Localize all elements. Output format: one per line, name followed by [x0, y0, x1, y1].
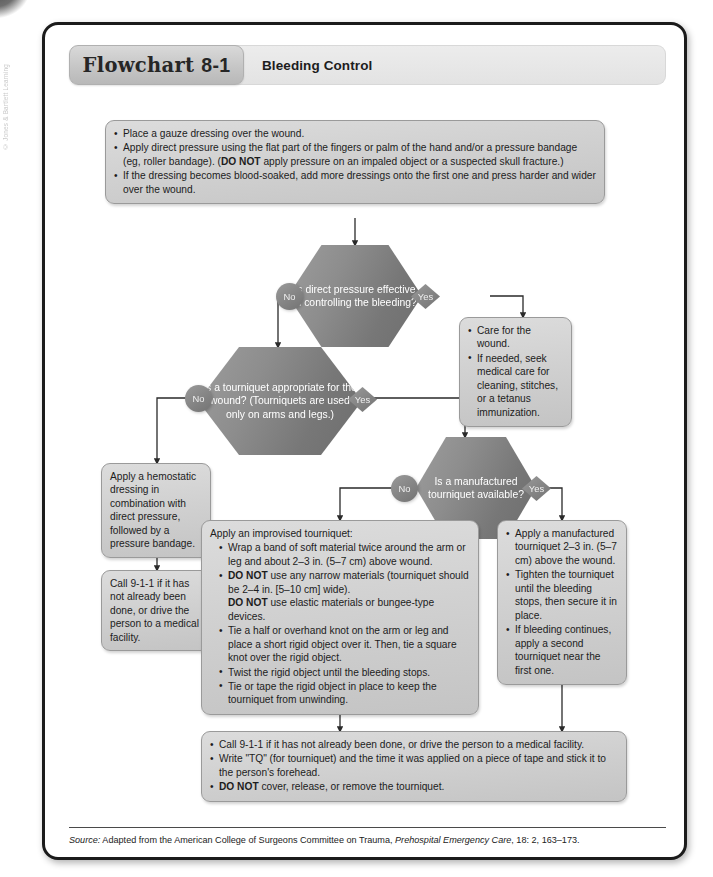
care-item-2-text: If needed, seek medical care for cleanin…	[477, 353, 558, 418]
flowchart-frame: Flowchart 8-1 Bleeding Control	[42, 22, 687, 860]
final-instructions-list: Call 9-1-1 if it has not already been do…	[210, 738, 618, 794]
decision-1-no-badge: No	[276, 283, 303, 310]
final-item-1-text: Call 9-1-1 if it has not already been do…	[219, 739, 584, 750]
list-item: Tie or tape the rigid object in place to…	[219, 680, 470, 707]
list-item: Tie a half or overhand knot on the arm o…	[219, 624, 470, 664]
flowchart-label: Flowchart	[83, 54, 195, 77]
improvised-tourniquet-box: Apply an improvised tourniquet: Wrap a b…	[201, 520, 479, 715]
care-item-1-text: Care for the wound.	[477, 325, 531, 349]
improvised-lead-text: Apply an improvised tourniquet:	[210, 527, 470, 540]
start-item-3-text: If the dressing becomes blood-soaked, ad…	[123, 170, 596, 194]
improvised-item-1-text: Wrap a band of soft material twice aroun…	[228, 542, 466, 566]
list-item: Tighten the tourniquet until the bleedin…	[506, 568, 618, 622]
improvised-item-3-text: Tie a half or overhand knot on the arm o…	[228, 625, 457, 663]
decision-2-no-label: No	[193, 393, 205, 404]
page-corner-shadow	[0, 0, 30, 18]
list-item: Call 9-1-1 if it has not already been do…	[210, 738, 618, 751]
source-citation: Source: Adapted from the American Colleg…	[69, 835, 669, 847]
source-italic-title: Prehospital Emergency Care	[395, 835, 511, 845]
decision-1-no-label: No	[284, 291, 296, 302]
list-item: If needed, seek medical care for cleanin…	[468, 352, 563, 419]
list-item: DO NOT use any narrow materials (tourniq…	[219, 569, 470, 623]
decision-3-no-badge: No	[391, 475, 418, 502]
start-item-1-text: Place a gauze dressing over the wound.	[123, 128, 304, 139]
decision-3-text: Is a manufactured tourniquet available?	[416, 475, 536, 502]
improvised-item-5-text: Tie or tape the rigid object in place to…	[228, 681, 437, 705]
manufactured-item-1-text: Apply a manufactured tourniquet 2–3 in. …	[515, 528, 617, 566]
source-text-before: Adapted from the American College of Sur…	[100, 835, 395, 845]
flowchart-page: © Jones & Bartlett Learning Flowchart 8-…	[0, 0, 713, 877]
list-item: Care for the wound.	[468, 324, 563, 351]
list-item: Place a gauze dressing over the wound.	[114, 127, 596, 140]
care-for-wound-list: Care for the wound. If needed, seek medi…	[468, 324, 563, 419]
improvised-steps-list: Wrap a band of soft material twice aroun…	[210, 541, 470, 706]
decision-2-no-badge: No	[185, 385, 212, 412]
footer-divider	[69, 827, 666, 828]
source-text-after: , 18: 2, 163–173.	[511, 835, 579, 845]
flowchart-number-text: Flowchart 8-1	[83, 54, 231, 77]
list-item: Twist the rigid object until the bleedin…	[219, 666, 470, 679]
call-911-left-box: Call 9-1-1 if it has not already been do…	[101, 570, 211, 651]
decision-2-yes-label: Yes	[355, 394, 370, 405]
flowchart-number-tab: Flowchart 8-1	[69, 45, 244, 85]
decision-1-text: Is direct pressure effective in controll…	[288, 283, 422, 310]
hemostatic-text: Apply a hemostatic dressing in combinati…	[110, 470, 202, 551]
list-item: Write "TQ" (for tourniquet) and the time…	[210, 752, 618, 779]
list-item: Apply a manufactured tourniquet 2–3 in. …	[506, 527, 618, 567]
manufactured-item-2-text: Tighten the tourniquet until the bleedin…	[515, 569, 617, 620]
list-item: Wrap a band of soft material twice aroun…	[219, 541, 470, 568]
call-911-left-text: Call 9-1-1 if it has not already been do…	[110, 577, 202, 644]
hemostatic-dressing-box: Apply a hemostatic dressing in combinati…	[101, 463, 211, 558]
decision-3-no-label: No	[399, 483, 411, 494]
copyright-watermark: © Jones & Bartlett Learning	[2, 30, 16, 150]
manufactured-steps-list: Apply a manufactured tourniquet 2–3 in. …	[506, 527, 618, 677]
start-instructions-box: Place a gauze dressing over the wound. A…	[105, 120, 605, 204]
improvised-item-4-text: Twist the rigid object until the bleedin…	[228, 667, 430, 678]
decision-2-text: Is a tourniquet appropriate for the woun…	[198, 381, 362, 421]
care-for-wound-box: Care for the wound. If needed, seek medi…	[459, 317, 572, 427]
start-instructions-list: Place a gauze dressing over the wound. A…	[114, 127, 596, 196]
list-item: Apply direct pressure using the flat par…	[114, 141, 596, 168]
flowchart-number: 8-1	[201, 54, 230, 76]
decision-1-yes-label: Yes	[418, 291, 433, 302]
final-instructions-box: Call 9-1-1 if it has not already been do…	[201, 731, 627, 802]
manufactured-item-3-text: If bleeding continues, apply a second to…	[515, 624, 611, 675]
list-item: If the dressing becomes blood-soaked, ad…	[114, 169, 596, 196]
decision-3-yes-label: Yes	[529, 483, 544, 494]
final-item-2-text: Write "TQ" (for tourniquet) and the time…	[219, 753, 606, 777]
list-item: If bleeding continues, apply a second to…	[506, 623, 618, 677]
source-label: Source:	[69, 835, 100, 845]
manufactured-tourniquet-box: Apply a manufactured tourniquet 2–3 in. …	[497, 520, 627, 685]
list-item: DO NOT cover, release, or remove the tou…	[210, 780, 618, 793]
